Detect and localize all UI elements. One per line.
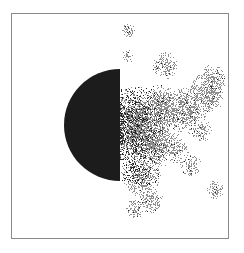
figure-frame — [11, 13, 229, 239]
figure — [0, 0, 244, 253]
